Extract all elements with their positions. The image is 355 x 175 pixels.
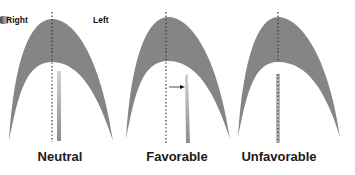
panel-neutral: Neutral [0, 0, 120, 175]
caption-unfavorable: Unfavorable [219, 149, 339, 164]
implant-bar-tilted [185, 74, 190, 143]
panel-unfavorable: Unfavorable [236, 0, 355, 175]
implant-bar [57, 71, 61, 141]
caption-neutral: Neutral [0, 149, 120, 164]
dental-arch-shape [238, 17, 340, 137]
dental-arch-shape [126, 17, 230, 139]
arrow-head-icon [180, 85, 185, 89]
